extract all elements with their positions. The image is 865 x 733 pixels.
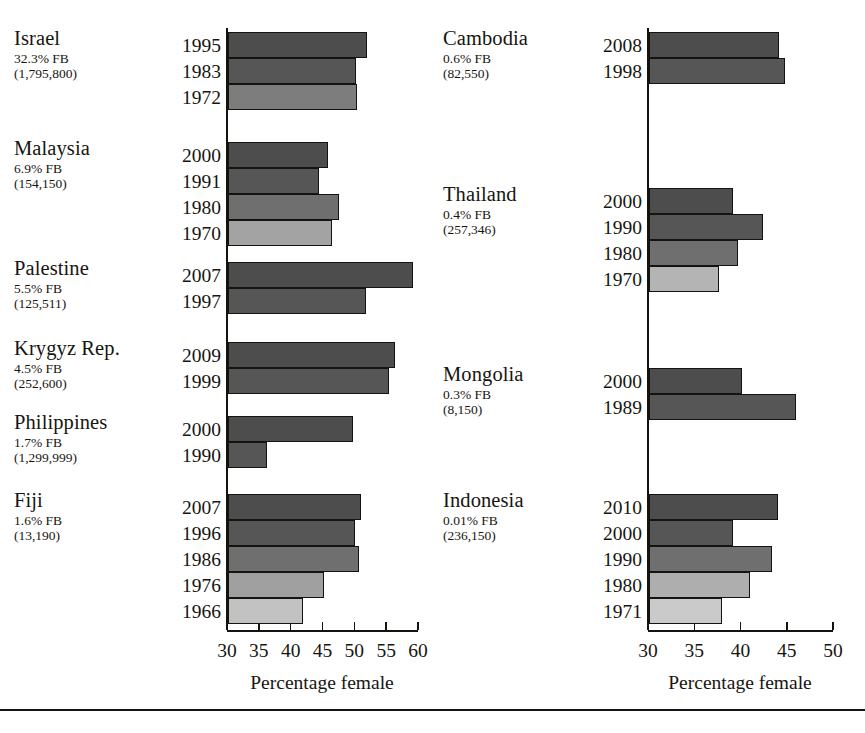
country-name: Israel <box>14 28 77 49</box>
country-name: Mongolia <box>443 364 524 385</box>
country-label-block: Palestine5.5% FB(125,511) <box>14 258 89 311</box>
bar-year-label: 2008 <box>522 36 642 56</box>
foreign-born-percent: 0.01% FB <box>443 514 524 528</box>
bar-year-label: 2010 <box>522 498 642 518</box>
bar-year-label: 1996 <box>101 524 221 544</box>
bar-year-label: 1972 <box>101 88 221 108</box>
country-name: Indonesia <box>443 490 524 511</box>
bar <box>228 572 324 598</box>
bar <box>649 572 750 598</box>
bar-year-label: 1995 <box>101 36 221 56</box>
country-name: Thailand <box>443 184 517 205</box>
country-label-block: Cambodia0.6% FB(82,550) <box>443 28 528 81</box>
foreign-born-count: (82,550) <box>443 67 528 81</box>
bar <box>228 546 359 572</box>
figure-root: 30354045505560Percentage femaleIsrael32.… <box>0 0 865 733</box>
bar <box>649 214 763 240</box>
country-label-block: Indonesia0.01% FB(236,150) <box>443 490 524 543</box>
bar <box>649 546 772 572</box>
bar-year-label: 1980 <box>101 198 221 218</box>
bar-year-label: 1989 <box>522 398 642 418</box>
bar-year-label: 2007 <box>101 498 221 518</box>
country-label-block: Mongolia0.3% FB(8,150) <box>443 364 524 417</box>
foreign-born-percent: 0.6% FB <box>443 52 528 66</box>
bar-year-label: 2007 <box>101 266 221 286</box>
bar <box>228 494 361 520</box>
bar <box>228 168 319 194</box>
bar <box>649 520 733 546</box>
bar-year-label: 1986 <box>101 550 221 570</box>
country-name: Palestine <box>14 258 89 279</box>
bar-year-label: 1966 <box>101 602 221 622</box>
bar-year-label: 2000 <box>522 372 642 392</box>
bar-year-label: 1970 <box>101 224 221 244</box>
x-axis-line <box>227 630 418 632</box>
bar-year-label: 2000 <box>101 146 221 166</box>
x-axis-tick <box>385 622 387 630</box>
bar-year-label: 1999 <box>101 372 221 392</box>
foreign-born-percent: 32.3% FB <box>14 52 77 66</box>
bar-year-label: 1980 <box>522 244 642 264</box>
country-label-block: Thailand0.4% FB(257,346) <box>443 184 517 237</box>
foreign-born-count: (236,150) <box>443 529 524 543</box>
bar <box>228 288 366 314</box>
bar-year-label: 2009 <box>101 346 221 366</box>
bar-year-label: 2000 <box>522 524 642 544</box>
country-label-block: Fiji1.6% FB(13,190) <box>14 490 62 543</box>
foreign-born-percent: 0.3% FB <box>443 388 524 402</box>
x-axis-tick <box>740 622 742 630</box>
foreign-born-percent: 6.9% FB <box>14 162 90 176</box>
bar <box>228 220 332 246</box>
country-label-block: Philippines1.7% FB(1,299,999) <box>14 412 107 465</box>
bar <box>228 58 356 84</box>
foreign-born-count: (257,346) <box>443 223 517 237</box>
bar <box>228 416 353 442</box>
bar <box>649 494 778 520</box>
foreign-born-count: (8,150) <box>443 403 524 417</box>
x-axis-tick <box>786 622 788 630</box>
bar <box>649 32 779 58</box>
country-label-block: Malaysia6.9% FB(154,150) <box>14 138 90 191</box>
bar-year-label: 2000 <box>522 192 642 212</box>
x-axis-tick-label: 60 <box>378 641 458 661</box>
foreign-born-count: (13,190) <box>14 529 62 543</box>
foreign-born-percent: 1.7% FB <box>14 436 107 450</box>
country-label-block: Israel32.3% FB(1,795,800) <box>14 28 77 81</box>
bar-year-label: 1990 <box>522 218 642 238</box>
x-axis-tick <box>832 622 834 630</box>
country-name: Philippines <box>14 412 107 433</box>
foreign-born-percent: 5.5% FB <box>14 282 89 296</box>
bar <box>649 394 796 420</box>
bar <box>649 368 742 394</box>
x-axis-title: Percentage female <box>172 673 472 693</box>
foreign-born-percent: 0.4% FB <box>443 208 517 222</box>
country-name: Fiji <box>14 490 62 511</box>
x-axis-title: Percentage female <box>590 673 865 693</box>
bar-year-label: 1997 <box>101 292 221 312</box>
bar-year-label: 1983 <box>101 62 221 82</box>
x-axis-tick-label: 50 <box>793 641 865 661</box>
bar <box>228 142 328 168</box>
bottom-rule <box>0 709 865 711</box>
foreign-born-count: (1,795,800) <box>14 67 77 81</box>
bar <box>649 266 719 292</box>
bar <box>228 194 339 220</box>
country-name: Cambodia <box>443 28 528 49</box>
bar-year-label: 1998 <box>522 62 642 82</box>
x-axis-line <box>648 630 833 632</box>
bar <box>228 32 367 58</box>
bar <box>649 598 722 624</box>
bar-year-label: 1980 <box>522 576 642 596</box>
x-axis-tick <box>354 622 356 630</box>
bar <box>228 262 413 288</box>
bar <box>649 58 785 84</box>
foreign-born-count: (154,150) <box>14 177 90 191</box>
country-name: Malaysia <box>14 138 90 159</box>
bar <box>228 598 303 624</box>
bar <box>228 442 267 468</box>
bar-year-label: 1970 <box>522 270 642 290</box>
bar <box>228 84 357 110</box>
foreign-born-count: (1,299,999) <box>14 451 107 465</box>
bar-year-label: 1976 <box>101 576 221 596</box>
bar <box>649 240 738 266</box>
